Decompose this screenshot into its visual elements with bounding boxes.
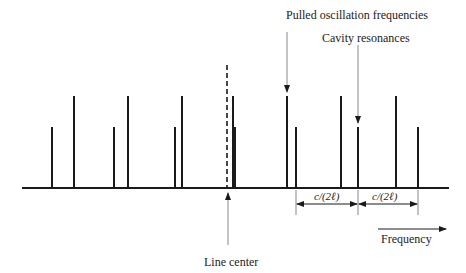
frequency-label: Frequency	[381, 232, 432, 246]
line-center-label: Line center	[204, 255, 258, 269]
pulled-label: Pulled oscillation frequencies	[286, 8, 428, 22]
spacing-label-1: c/(2ℓ)	[314, 190, 340, 203]
cavity-label: Cavity resonances	[322, 31, 410, 45]
spacing-label-2: c/(2ℓ)	[372, 190, 398, 203]
spectral-lines	[52, 96, 418, 188]
frequency-diagram: Pulled oscillation frequencies Cavity re…	[0, 0, 466, 273]
